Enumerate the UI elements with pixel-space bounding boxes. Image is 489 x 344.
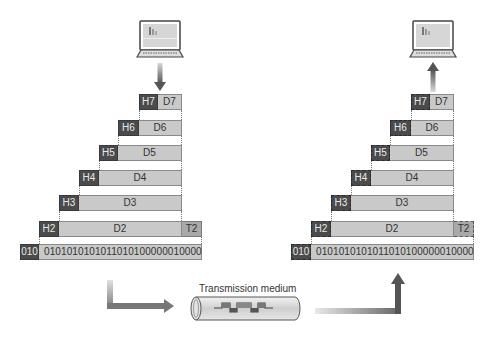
guide-line [201,236,202,244]
header-cell: H3 [331,195,351,211]
sender-to-medium-arrow-icon [107,280,174,313]
guide-line [139,110,140,120]
data-cell: D5 [118,145,182,161]
guide-line [181,211,182,221]
guide-line [181,186,182,195]
encapsulation-diagram: Transmission medium H7 D7 H6 D6 H5 D5 H4… [0,0,489,344]
data-cell: D3 [351,195,454,211]
guide-line [390,136,391,145]
header-cell: H7 [139,94,158,110]
header-cell: 010 [291,244,311,260]
header-cell: H4 [79,170,99,186]
header-cell: H5 [371,145,390,161]
data-cell: D5 [390,145,454,161]
receiver-layer-4: H4 D4 [351,170,454,186]
guide-line [331,211,332,221]
data-cell: D4 [371,170,454,186]
trailer-cell: T2 [182,221,202,237]
guide-line [59,211,60,221]
header-cell: H7 [411,94,430,110]
sender-layer-6: H6 D6 [118,120,182,136]
header-cell: H6 [390,120,411,136]
sender-layer-5: H5 D5 [99,145,182,161]
header-cell: H6 [118,120,139,136]
data-cell: D6 [411,120,454,136]
data-cell: D6 [139,120,182,136]
trailer-cell: T2 [454,221,474,237]
receiver-layer-1: 010 0101010101011010100000010000 [291,244,474,260]
receiver-layer-2: H2 D2 T2 [311,221,474,237]
receiver-layer-5: H5 D5 [371,145,454,161]
guide-line [181,136,182,145]
guide-line [453,136,454,145]
receiver-layer-3: H3 D3 [331,195,454,211]
data-cell: D7 [430,94,454,110]
medium-to-receiver-arrow-icon [315,273,405,314]
header-cell: H2 [39,221,59,237]
receiver-layer-6: H6 D6 [390,120,454,136]
guide-line [453,211,454,221]
transmission-medium-label: Transmission medium [199,283,296,294]
guide-line [351,186,352,195]
data-cell: D7 [158,94,182,110]
data-cell: D2 [59,221,182,237]
sender-layer-7: H7 D7 [139,94,182,110]
sender-layer-3: H3 D3 [59,195,182,211]
data-cell: D4 [99,170,182,186]
header-cell: H5 [99,145,118,161]
receiver-layer-7: H7 D7 [411,94,454,110]
receiver-laptop-icon [410,21,456,57]
data-cell: D3 [79,195,182,211]
guide-line [181,110,182,120]
guide-line [181,161,182,170]
guide-line [79,186,80,195]
header-cell: 010 [20,244,39,260]
data-cell: D2 [331,221,454,237]
sender-laptop-icon [137,21,183,57]
guide-line [311,236,312,244]
guide-line [473,236,474,244]
bitstream-cell: 0101010101011010100000010000 [39,244,202,260]
sender-layer-4: H4 D4 [79,170,182,186]
guide-line [39,236,40,244]
header-cell: H4 [351,170,371,186]
sender-layer-1: 010 0101010101011010100000010000 [20,244,202,260]
guide-line [371,161,372,170]
header-cell: H2 [311,221,331,237]
header-cell: H3 [59,195,79,211]
guide-line [118,136,119,145]
up-arrow-icon [427,62,439,92]
guide-line [411,110,412,120]
guide-line [99,161,100,170]
sender-layer-2: H2 D2 T2 [39,221,202,237]
transmission-medium-cable-icon [191,297,300,320]
bitstream-cell: 0101010101011010100000010000 [311,244,474,260]
guide-line [453,110,454,120]
guide-line [453,161,454,170]
guide-line [453,186,454,195]
down-arrow-icon [154,63,166,91]
